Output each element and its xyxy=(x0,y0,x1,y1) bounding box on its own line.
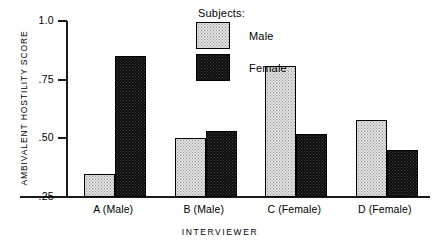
y-axis-tick-mark xyxy=(58,20,67,22)
y-axis-tick-mark xyxy=(58,196,67,198)
bar-female xyxy=(387,150,418,197)
bar-female xyxy=(206,131,237,197)
x-axis-category-label: C (Female) xyxy=(249,203,340,215)
legend: Subjects: Male Female xyxy=(196,7,326,86)
legend-label-female: Female xyxy=(249,62,287,74)
legend-swatch-female xyxy=(196,54,230,81)
bar-group xyxy=(356,21,418,197)
chart-figure: AMBIVALENT HOSTILITY SCORE 1.0.75.50.25 … xyxy=(0,0,440,252)
y-axis-tick-label: 1.0 xyxy=(20,14,54,26)
y-axis-tick-label: .50 xyxy=(20,131,54,143)
bar-female xyxy=(296,134,327,197)
legend-label-male: Male xyxy=(249,30,274,42)
x-axis-title: INTERVIEWER xyxy=(0,227,440,237)
bar-group xyxy=(84,21,146,197)
y-axis-title: AMBIVALENT HOSTILITY SCORE xyxy=(19,23,29,193)
legend-title: Subjects: xyxy=(198,7,326,19)
y-axis-tick-mark xyxy=(58,79,67,81)
legend-swatch-male xyxy=(196,22,230,49)
x-axis-category-label: D (Female) xyxy=(340,203,431,215)
y-axis-tick-label: .75 xyxy=(20,73,54,85)
bar-female xyxy=(115,56,146,197)
y-axis-tick-mark xyxy=(58,137,67,139)
legend-item-male: Male xyxy=(196,22,326,49)
y-axis-tick-label: .25 xyxy=(20,190,54,202)
legend-item-female: Female xyxy=(196,54,326,81)
bar-male xyxy=(356,120,387,197)
bar-male xyxy=(175,138,206,197)
bar-male xyxy=(84,174,115,197)
x-axis-category-label: B (Male) xyxy=(159,203,250,215)
x-axis-category-label: A (Male) xyxy=(68,203,159,215)
